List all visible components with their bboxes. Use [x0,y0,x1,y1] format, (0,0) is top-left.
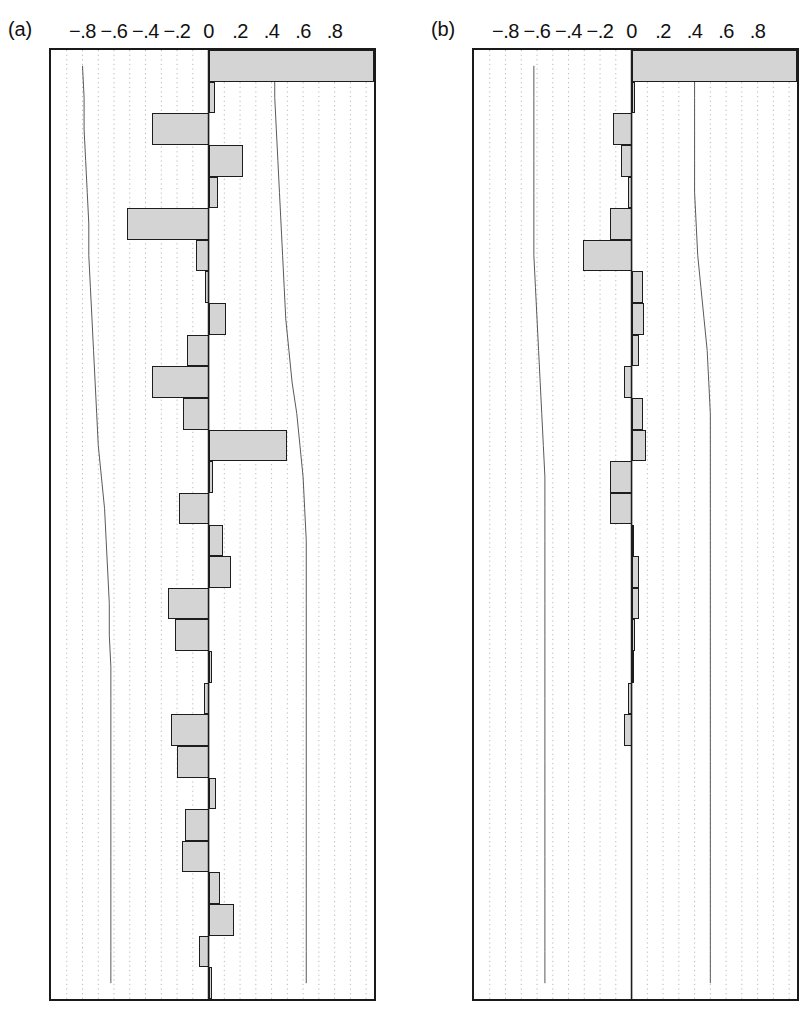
panel-b-label: (b) [431,18,455,41]
axis-tick-label: .2 [655,20,671,43]
panel-b-plot-area [472,48,799,1001]
axis-tick-label: .6 [718,20,734,43]
axis-tick-label: −.6 [524,20,551,43]
axis-tick-label: .8 [750,20,766,43]
axis-tick-label: −.4 [555,20,582,43]
axis-tick-label: −.8 [492,20,519,43]
panel-b-axis: −.8−.6−.4−.20.2.4.6.8 [472,20,799,44]
figure-container: (a) −.8−.6−.4−.20.2.4.6.8 (b) −.8−.6−.4−… [0,0,809,1026]
panel-b-zero-line [474,50,797,999]
panel-b: (b) −.8−.6−.4−.20.2.4.6.8 [0,0,809,1026]
axis-tick-label: −.2 [587,20,614,43]
axis-tick-label: .4 [687,20,703,43]
axis-tick-label: 0 [626,20,637,43]
